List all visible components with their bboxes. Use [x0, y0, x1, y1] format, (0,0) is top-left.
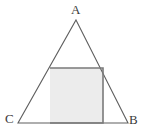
geometry-figure: A C B — [0, 0, 146, 134]
vertex-label-b: B — [129, 113, 138, 126]
vertex-label-c: C — [5, 112, 14, 125]
inscribed-square — [50, 68, 103, 123]
vertex-label-a: A — [71, 3, 80, 16]
geometry-canvas — [0, 0, 146, 134]
